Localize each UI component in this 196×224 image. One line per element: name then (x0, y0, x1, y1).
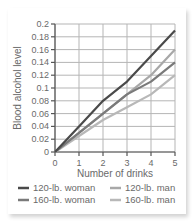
line-chart: 00.020.040.060.080.10.120.140.160.180.20… (0, 0, 196, 224)
x-tick-label: 2 (100, 158, 105, 168)
legend-label: 120-lb. man (125, 182, 175, 193)
x-tick-label: 0 (52, 158, 57, 168)
y-tick-label: 0.16 (31, 45, 49, 55)
y-axis-label: Blood alcohol level (12, 46, 23, 129)
x-tick-label: 1 (76, 158, 81, 168)
axes: 00.020.040.060.080.10.120.140.160.180.20… (31, 19, 177, 168)
legend-label: 120-lb. woman (33, 182, 95, 193)
y-tick-label: 0.1 (36, 83, 49, 93)
y-tick-label: 0.08 (31, 96, 49, 106)
x-tick-label: 4 (148, 158, 153, 168)
legend-label: 160-lb. woman (33, 194, 95, 205)
y-tick-label: 0 (44, 147, 49, 157)
y-tick-label: 0.02 (31, 134, 49, 144)
x-axis-label: Number of drinks (77, 168, 153, 179)
legend-label: 160-lb. man (125, 194, 175, 205)
y-tick-label: 0.14 (31, 57, 49, 67)
y-tick-label: 0.12 (31, 70, 49, 80)
y-tick-label: 0.2 (36, 19, 49, 29)
series-line (55, 62, 175, 152)
legend: 120-lb. woman160-lb. woman120-lb. man160… (18, 182, 175, 205)
data-lines (55, 30, 175, 152)
y-tick-label: 0.04 (31, 121, 49, 131)
y-tick-label: 0.18 (31, 32, 49, 42)
series-line (55, 30, 175, 152)
y-tick-label: 0.06 (31, 109, 49, 119)
x-tick-label: 3 (124, 158, 129, 168)
x-tick-label: 5 (172, 158, 177, 168)
